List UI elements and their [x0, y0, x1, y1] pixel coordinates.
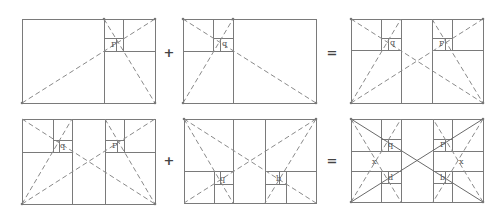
spiral-label: q	[220, 174, 225, 183]
dashed-diagonal	[183, 19, 233, 103]
dashed-diagonal	[351, 19, 401, 103]
corner-point	[350, 201, 353, 204]
corner-point	[103, 18, 106, 21]
dashed-diagonal	[22, 119, 155, 204]
spiral-label: d	[388, 173, 393, 182]
corner-point	[182, 102, 185, 105]
corner-point	[232, 18, 235, 21]
corner-point	[21, 203, 24, 206]
corner-point	[154, 18, 157, 21]
corner-point	[482, 18, 485, 21]
corner-point	[154, 102, 157, 105]
plus-operator: +	[164, 45, 175, 60]
dashed-diagonal	[183, 19, 316, 103]
spiral-label: q	[222, 39, 227, 48]
spiral-label: q	[388, 140, 393, 149]
corner-point	[315, 118, 318, 121]
panel-top-left: P	[21, 18, 157, 105]
spiral-label: q	[390, 38, 395, 47]
panel-bottom-left: qP	[21, 119, 157, 205]
corner-point	[182, 18, 185, 21]
dashed-diagonal	[22, 119, 72, 204]
corner-point	[21, 102, 24, 105]
dashed-diagonal	[105, 119, 155, 204]
corner-point	[183, 118, 186, 121]
dashed-diagonal	[22, 19, 155, 103]
dashed-diagonal	[22, 119, 155, 204]
corner-point	[154, 203, 157, 206]
spiral-label: P	[440, 140, 446, 149]
spiral-label: x	[372, 157, 377, 166]
plus-operator: +	[164, 153, 175, 168]
dashed-diagonal	[265, 119, 316, 203]
spiral-label: P	[111, 40, 117, 49]
panel-frame	[23, 20, 156, 104]
corner-point	[350, 118, 353, 121]
corner-point	[350, 18, 353, 21]
spiral-label: x	[459, 157, 464, 166]
spiral-label: q	[60, 141, 65, 150]
corner-point	[482, 102, 485, 105]
corner-point	[315, 102, 318, 105]
dashed-diagonal	[432, 19, 483, 103]
dashed-diagonal	[104, 19, 155, 103]
panel-top-right: qP	[350, 18, 485, 105]
spiral-label: P	[112, 141, 118, 150]
spiral-label: b	[276, 174, 281, 183]
panel-bottom-middle: qb	[183, 118, 318, 204]
corner-point	[350, 102, 353, 105]
corner-point	[482, 201, 485, 204]
spiral-label: P	[439, 39, 445, 48]
equals-operator: =	[327, 45, 338, 60]
dashed-diagonal	[184, 119, 233, 203]
equals-operator: =	[327, 153, 338, 168]
panel-bottom-right: qPdbxx	[350, 118, 485, 204]
corner-point	[482, 118, 485, 121]
spiral-label: b	[440, 173, 445, 182]
golden-spiral-diagram: PqqPqPqbqPdbxx+=+=	[0, 0, 503, 216]
panel-top-middle: q	[182, 18, 318, 105]
